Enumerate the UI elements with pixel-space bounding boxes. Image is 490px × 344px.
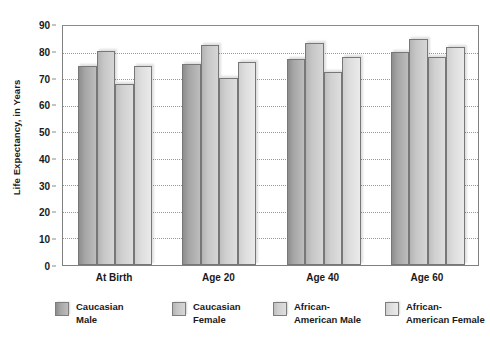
legend-item-label: African- American Female [406,301,485,326]
bar-group [391,26,465,265]
y-axis-tick-label: 50 [39,127,50,138]
legend-item-label: Caucasian Female [193,301,241,326]
y-axis-tick-label: 70 [39,73,50,84]
y-axis-tick-mark [52,239,56,240]
bar [446,47,465,265]
y-axis-tick-mark [52,185,56,186]
x-axis-category-label: Age 60 [410,272,443,283]
bar [409,39,428,265]
bar [238,62,257,266]
legend-item[interactable]: African- American Male [273,301,361,326]
legend-item[interactable]: Caucasian Female [172,301,241,326]
y-axis-tick-mark [52,51,56,52]
y-axis-tick-label: 90 [39,20,50,31]
legend-item[interactable]: African- American Female [385,301,485,326]
y-axis-tick-label: 0 [44,261,50,272]
bar [201,45,220,265]
legend-item-label: Caucasian Male [76,301,124,326]
bar [391,52,410,265]
y-axis-tick-label: 20 [39,207,50,218]
legend-item-label: African- American Male [294,301,361,326]
bar [305,43,324,265]
legend-swatch-icon [273,302,287,316]
y-axis-tick-label: 40 [39,153,50,164]
legend-item[interactable]: Caucasian Male [55,301,124,326]
bar [219,78,238,265]
bar-group [78,26,152,265]
bar [342,57,361,265]
y-axis-tick-label: 30 [39,180,50,191]
bar-group [182,26,256,265]
legend-swatch-icon [172,302,186,316]
legend-swatch-icon [55,302,69,316]
y-axis-tick-mark [52,212,56,213]
y-axis-tick-label: 60 [39,100,50,111]
chart-legend: Caucasian MaleCaucasian FemaleAfrican- A… [55,301,485,341]
y-axis-tick-label: 80 [39,46,50,57]
y-axis-tick-mark [52,105,56,106]
x-axis-category-label: At Birth [96,272,133,283]
bar [115,84,134,265]
bar [324,72,343,265]
y-axis-tick-mark [52,78,56,79]
y-axis-tick-label: 10 [39,234,50,245]
x-axis-category-label: Age 20 [202,272,235,283]
bar [97,51,116,265]
bar [428,57,447,265]
bar-group [287,26,361,265]
bar [287,59,306,265]
x-axis-category-label: Age 40 [306,272,339,283]
y-axis-tick-mark [52,266,56,267]
bar [134,66,153,265]
y-axis-tick-labels: 0102030405060708090 [14,25,56,266]
bars-layer [63,26,478,265]
x-axis-category-labels: At BirthAge 20Age 40Age 60 [62,272,479,288]
life-expectancy-bar-chart: Life Expectancy, in Years 01020304050607… [0,0,490,344]
bar [182,64,201,265]
bar [78,66,97,265]
legend-swatch-icon [385,302,399,316]
plot-area [62,25,479,266]
y-axis-tick-mark [52,25,56,26]
y-axis-tick-mark [52,132,56,133]
y-axis-tick-mark [52,158,56,159]
